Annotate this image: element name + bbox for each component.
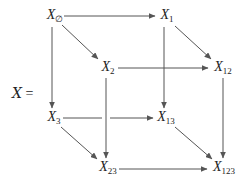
arrow-x3-to-x23 [61,127,97,159]
node-subscript: ∅ [55,14,63,24]
node-subscript: 23 [108,166,117,176]
node-subscript: 1 [169,14,174,24]
arrow-x13-to-x123 [175,127,212,159]
node-base: X [214,59,223,74]
node-x-3: X3 [47,110,60,126]
node-x-empty: X∅ [47,8,64,24]
arrow-x1-to-x12 [175,26,211,59]
node-base: X [213,159,222,174]
node-x-123: X123 [213,160,235,176]
node-x-2: X2 [101,60,114,76]
diagram-lhs-label: X = [12,85,33,102]
node-x-23: X23 [99,160,117,176]
node-subscript: 3 [56,116,61,126]
node-base: X [99,159,108,174]
node-x-12: X12 [214,60,232,76]
arrow-layer [0,0,243,183]
node-subscript: 13 [166,116,175,126]
node-x-1: X1 [160,8,173,24]
lhs-equals: = [25,86,33,101]
node-base: X [101,59,110,74]
node-base: X [47,7,56,22]
arrow-x-empty-to-x2 [62,25,98,59]
node-subscript: 2 [110,66,115,76]
node-x-13: X13 [157,110,175,126]
node-subscript: 123 [222,166,236,176]
lhs-symbol: X [12,85,22,101]
node-base: X [157,109,166,124]
node-base: X [160,7,169,22]
node-subscript: 12 [223,66,232,76]
node-base: X [47,109,56,124]
